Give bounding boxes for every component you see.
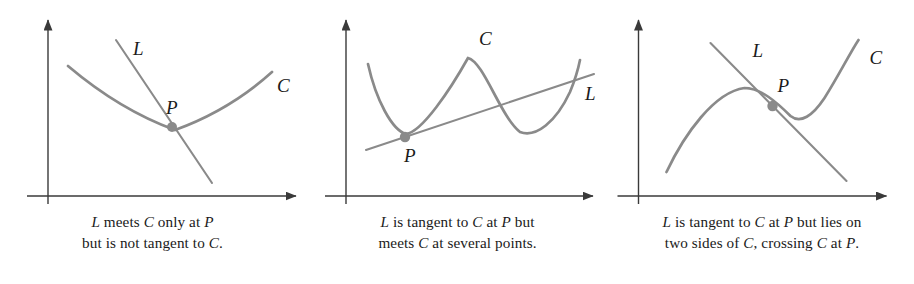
label-c: C [479,28,492,49]
panel-1-plot: L C P [0,0,305,212]
label-p: P [403,145,416,166]
caption-line-1: L is tangent to C at P but [305,212,610,233]
panel-1: L C P L meets C only at P but is not tan… [0,0,305,284]
panel-3-caption: L is tangent to C at P but lies on two s… [610,212,914,254]
panel-2-caption: L is tangent to C at P but meets C at se… [305,212,610,254]
label-l: L [132,38,144,59]
caption-line-1: L is tangent to C at P but lies on [610,212,914,233]
caption-line-1: L meets C only at P [0,212,305,233]
point-p [167,122,177,132]
panel-3: L C P L is tangent to C at P but lies on… [610,0,914,284]
label-c: C [870,47,883,68]
panel-2-plot: C L P [305,0,610,212]
point-p [400,132,410,142]
caption-line-2: meets C at several points. [305,233,610,254]
label-l: L [752,40,764,61]
panel-2: C L P L is tangent to C at P but meets C… [305,0,610,284]
label-p: P [165,97,178,118]
point-p [767,101,777,111]
label-c: C [277,75,290,96]
line-l [711,43,847,181]
panel-1-caption: L meets C only at P but is not tangent t… [0,212,305,254]
caption-line-2: two sides of C, crossing C at P. [610,233,914,254]
panel-3-plot: L C P [610,0,914,212]
curve-c [368,58,580,134]
label-l: L [584,83,596,104]
label-p: P [777,75,790,96]
line-l [116,40,212,183]
tangent-line-figure: L C P L meets C only at P but is not tan… [0,0,914,284]
caption-line-2: but is not tangent to C. [0,233,305,254]
